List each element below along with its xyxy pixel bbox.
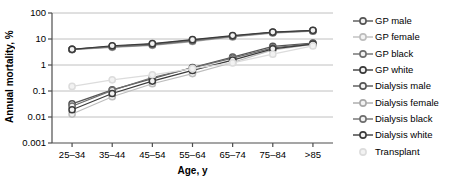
y-tick-label: 1 — [41, 59, 46, 70]
data-series-group — [69, 27, 316, 117]
legend-marker-icon — [352, 13, 374, 29]
legend-marker-icon — [352, 111, 374, 127]
x-axis-title: Age, y — [52, 165, 333, 176]
series-transplant — [69, 43, 316, 90]
chart-figure: Annual mortality, % GP maleGP femaleGP b… — [0, 0, 456, 193]
y-tick-label: 0.1 — [33, 85, 46, 96]
chart-legend: GP maleGP femaleGP blackGP whiteDialysis… — [352, 13, 456, 160]
legend-marker-icon — [352, 127, 374, 143]
legend-item[interactable]: GP female — [352, 29, 456, 45]
x-tick-label: 35–44 — [90, 149, 134, 160]
x-tick-label: >85 — [291, 149, 335, 160]
legend-item[interactable]: GP white — [352, 62, 456, 78]
x-tick-label: 65–74 — [211, 149, 255, 160]
y-tick-label: 100 — [30, 7, 46, 18]
x-tick-label: 75–84 — [251, 149, 295, 160]
y-axis-title: Annual mortality, % — [2, 12, 16, 142]
legend-item[interactable]: Dialysis white — [352, 127, 456, 143]
x-tick-label: 55–64 — [171, 149, 215, 160]
legend-item-label: Dialysis black — [374, 114, 433, 124]
legend-item[interactable]: GP black — [352, 46, 456, 62]
legend-item-label: Dialysis male — [374, 81, 431, 91]
legend-item[interactable]: Dialysis black — [352, 111, 456, 127]
legend-item-label: Transplant — [374, 147, 420, 157]
legend-item[interactable]: Dialysis male — [352, 78, 456, 94]
legend-item-label: Dialysis white — [374, 130, 433, 140]
legend-marker-icon — [352, 29, 374, 45]
y-tick-label: 10 — [35, 33, 46, 44]
x-tick-label: 45–54 — [130, 149, 174, 160]
legend-marker-icon — [352, 46, 374, 62]
legend-item-label: GP black — [374, 49, 413, 59]
legend-marker-icon — [352, 78, 374, 94]
legend-item-label: GP female — [374, 32, 420, 42]
legend-item[interactable]: GP male — [352, 13, 456, 29]
y-tick-label: 0.01 — [28, 111, 47, 122]
legend-marker-icon — [352, 62, 374, 78]
legend-item[interactable]: Dialysis female — [352, 94, 456, 110]
legend-item[interactable]: Transplant — [352, 143, 456, 159]
legend-item-label: Dialysis female — [374, 98, 439, 108]
x-tick-label: 25–34 — [50, 149, 94, 160]
legend-item-label: GP male — [374, 16, 412, 26]
legend-marker-icon — [352, 144, 374, 160]
axis-lines — [48, 13, 333, 147]
y-tick-label: 0.001 — [22, 137, 46, 148]
legend-marker-icon — [352, 95, 374, 111]
legend-item-label: GP white — [374, 65, 413, 75]
